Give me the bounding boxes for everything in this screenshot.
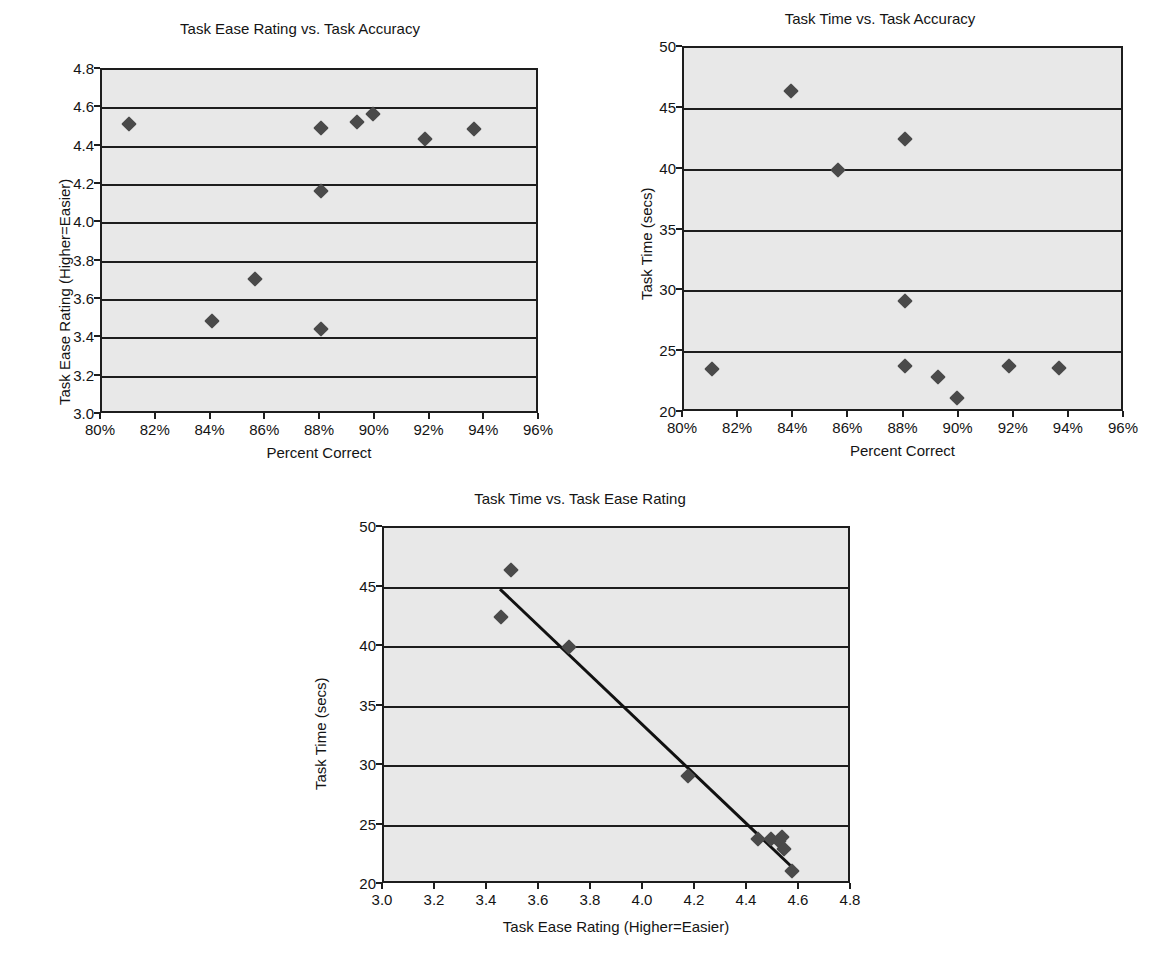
y-tick-label: 4.8 (52, 60, 94, 77)
x-tick-mark (681, 411, 683, 417)
y-tick-label: 3.6 (52, 290, 94, 307)
x-tick-label: 94% (468, 421, 498, 438)
gridline (384, 587, 848, 589)
data-point (248, 271, 264, 287)
gridline (684, 108, 1121, 110)
y-tick-label: 4.0 (52, 213, 94, 230)
data-point (704, 361, 720, 377)
y-tick-label: 25 (634, 342, 676, 359)
y-tick-mark (376, 763, 382, 765)
x-tick-mark (1122, 411, 1124, 417)
x-tick-label: 3.2 (424, 891, 445, 908)
y-tick-label: 3.2 (52, 366, 94, 383)
x-tick-mark (318, 413, 320, 419)
y-tick-mark (376, 644, 382, 646)
data-point (313, 321, 329, 337)
chart2-title: Task Time vs. Task Accuracy (650, 10, 1110, 27)
data-point (897, 131, 913, 147)
chart3-plot-area (382, 526, 850, 883)
y-tick-label: 35 (634, 220, 676, 237)
x-tick-label: 92% (413, 421, 443, 438)
gridline (684, 230, 1121, 232)
x-tick-label: 4.6 (788, 891, 809, 908)
gridline (102, 146, 536, 148)
y-tick-mark (376, 585, 382, 587)
x-tick-label: 94% (1053, 419, 1083, 436)
y-tick-label: 20 (334, 875, 376, 892)
data-point (784, 83, 800, 99)
chart-task-time-vs-task-ease: Task Time vs. Task Ease Rating Task Time… (290, 490, 890, 950)
data-point (949, 391, 965, 407)
chart1-x-axis-label: Percent Correct (100, 444, 538, 461)
x-tick-mark (209, 413, 211, 419)
y-tick-label: 40 (634, 159, 676, 176)
gridline (102, 222, 536, 224)
y-tick-label: 3.4 (52, 328, 94, 345)
y-tick-mark (94, 220, 100, 222)
data-point (349, 114, 365, 130)
x-tick-label: 92% (998, 419, 1028, 436)
y-tick-label: 35 (334, 696, 376, 713)
gridline (684, 290, 1121, 292)
y-tick-label: 3.8 (52, 251, 94, 268)
chart2-x-axis-label: Percent Correct (682, 442, 1123, 459)
x-tick-mark (693, 883, 695, 889)
y-tick-label: 45 (334, 577, 376, 594)
chart3-x-axis-label: Task Ease Rating (Higher=Easier) (382, 918, 850, 935)
x-tick-label: 96% (1108, 419, 1138, 436)
x-tick-mark (797, 883, 799, 889)
x-tick-label: 4.4 (736, 891, 757, 908)
chart3-title: Task Time vs. Task Ease Rating (350, 490, 810, 507)
data-point (784, 863, 800, 879)
y-tick-label: 3.0 (52, 405, 94, 422)
y-tick-mark (676, 45, 682, 47)
y-tick-mark (676, 106, 682, 108)
y-tick-label: 25 (334, 815, 376, 832)
data-point (504, 562, 520, 578)
gridline (384, 825, 848, 827)
chart2-plot-area (682, 46, 1123, 411)
gridline (102, 376, 536, 378)
y-tick-mark (376, 525, 382, 527)
x-tick-mark (745, 883, 747, 889)
y-tick-label: 20 (634, 403, 676, 420)
y-tick-mark (376, 704, 382, 706)
data-point (467, 122, 483, 138)
x-tick-label: 4.0 (632, 891, 653, 908)
y-tick-label: 4.4 (52, 136, 94, 153)
chart1-plot-area (100, 68, 538, 413)
x-tick-mark (849, 883, 851, 889)
x-tick-label: 88% (887, 419, 917, 436)
chart1-title: Task Ease Rating vs. Task Accuracy (70, 20, 530, 37)
data-point (493, 609, 509, 625)
data-point (561, 639, 577, 655)
x-tick-mark (537, 883, 539, 889)
x-tick-mark (433, 883, 435, 889)
x-tick-mark (736, 411, 738, 417)
y-tick-mark (676, 288, 682, 290)
x-tick-label: 84% (194, 421, 224, 438)
data-point (122, 116, 138, 132)
x-tick-mark (428, 413, 430, 419)
data-point (1001, 358, 1017, 374)
y-tick-mark (676, 167, 682, 169)
gridline (102, 299, 536, 301)
y-tick-mark (94, 67, 100, 69)
data-point (204, 313, 220, 329)
x-tick-mark (1012, 411, 1014, 417)
x-tick-mark (99, 413, 101, 419)
y-tick-mark (94, 335, 100, 337)
y-tick-label: 45 (634, 98, 676, 115)
gridline (102, 107, 536, 109)
x-tick-label: 86% (249, 421, 279, 438)
gridline (684, 351, 1121, 353)
y-tick-mark (94, 297, 100, 299)
y-tick-mark (94, 105, 100, 107)
x-tick-label: 90% (359, 421, 389, 438)
gridline (384, 706, 848, 708)
data-point (680, 768, 696, 784)
y-tick-label: 50 (334, 518, 376, 535)
x-tick-mark (641, 883, 643, 889)
x-tick-label: 84% (777, 419, 807, 436)
x-tick-label: 88% (304, 421, 334, 438)
